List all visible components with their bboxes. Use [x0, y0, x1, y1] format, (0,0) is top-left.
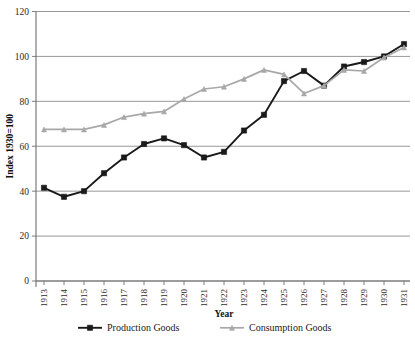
data-point-marker — [141, 141, 146, 146]
x-tick-label: 1919 — [159, 289, 169, 308]
data-point-marker — [301, 68, 306, 73]
gridlines-group — [36, 12, 410, 282]
y-axis-title: Index 1930=100 — [5, 114, 15, 179]
x-tick-label: 1927 — [319, 289, 329, 308]
data-point-marker — [61, 194, 66, 199]
x-tick-label: 1928 — [339, 289, 349, 308]
data-point-marker — [241, 128, 246, 133]
data-point-marker — [281, 79, 286, 84]
legend-item[interactable]: Consumption Goods — [220, 322, 332, 333]
x-tick-label: 1926 — [299, 289, 309, 308]
y-tick-label: 100 — [15, 52, 30, 62]
data-point-marker — [181, 143, 186, 148]
y-tick-label: 40 — [20, 187, 30, 197]
x-tick-label: 1923 — [239, 289, 249, 308]
chart-figure: 020406080100120 191319141915191619171918… — [0, 0, 415, 340]
series-consumption-goods — [42, 45, 407, 132]
series-group — [41, 41, 406, 199]
x-tick-label: 1925 — [279, 289, 289, 308]
data-point-marker — [121, 155, 126, 160]
data-point-marker — [81, 189, 86, 194]
data-point-marker — [361, 59, 366, 64]
legend-label: Consumption Goods — [249, 322, 332, 333]
y-tick-label: 120 — [15, 7, 30, 17]
legend-item[interactable]: Production Goods — [78, 322, 180, 333]
x-tick-label: 1920 — [179, 289, 189, 308]
x-tick-label: 1915 — [79, 289, 89, 308]
y-tick-label: 80 — [20, 97, 30, 107]
legend-group: Production GoodsConsumption Goods — [78, 322, 332, 333]
chart-canvas: 020406080100120 191319141915191619171918… — [0, 0, 415, 340]
series-production-goods — [41, 41, 406, 199]
y-tick-labels-group: 020406080100120 — [15, 7, 36, 287]
x-tick-label: 1917 — [119, 289, 129, 308]
y-tick-label: 20 — [20, 231, 30, 241]
axis-titles-group: Index 1930=100Year — [5, 114, 234, 319]
x-tick-labels-group: 1913191419151916191719181919192019211922… — [39, 289, 409, 308]
x-tick-label: 1918 — [139, 289, 149, 308]
legend-label: Production Goods — [107, 322, 180, 333]
data-point-marker — [41, 185, 46, 190]
data-point-marker — [221, 149, 226, 154]
x-axis-title: Year — [215, 309, 235, 319]
x-tick-label: 1921 — [199, 289, 209, 307]
x-tick-label: 1922 — [219, 289, 229, 307]
x-tickmarks-group — [44, 281, 404, 285]
x-tick-label: 1914 — [59, 289, 69, 308]
data-point-marker — [161, 136, 166, 141]
data-point-marker — [261, 112, 266, 117]
x-tick-label: 1929 — [359, 289, 369, 308]
x-tick-label: 1916 — [99, 289, 109, 308]
legend-marker-swatch — [87, 325, 92, 330]
x-tick-label: 1924 — [259, 289, 269, 308]
x-tick-label: 1913 — [39, 289, 49, 308]
y-tick-label: 60 — [20, 142, 30, 152]
series-line — [44, 44, 404, 197]
data-point-marker — [201, 155, 206, 160]
x-tick-label: 1931 — [399, 289, 409, 307]
x-tick-label: 1930 — [379, 289, 389, 308]
data-point-marker — [101, 171, 106, 176]
y-tick-label: 0 — [24, 276, 29, 286]
